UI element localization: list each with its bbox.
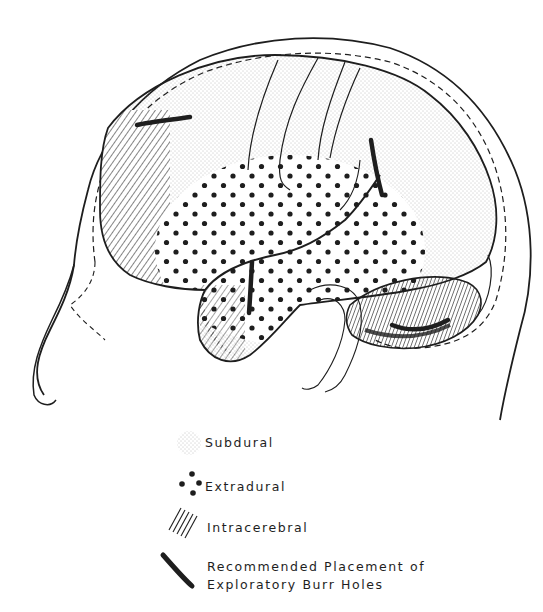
intracerebral-frontal-region [90,110,170,300]
head-brain-diagram [0,0,543,612]
subdural-symbol [177,431,201,455]
extradural-symbol [179,471,202,496]
legend-symbols [163,431,202,586]
face-dashed-line [70,262,105,340]
burr-hole-symbol [163,555,192,586]
burr-hole-temporal[interactable] [249,262,252,313]
intracerebral-symbol [169,508,197,538]
